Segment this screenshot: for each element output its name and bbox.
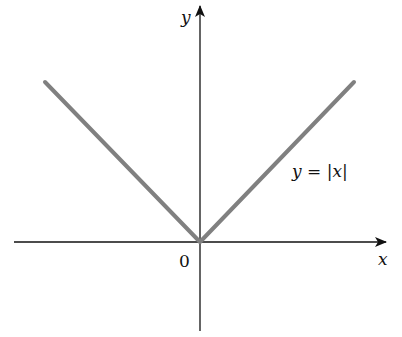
y-axis-label: y (180, 7, 191, 27)
x-axis-label: x (378, 249, 388, 269)
graph-canvas: y x 0 y = |x| (0, 0, 402, 337)
origin-label: 0 (179, 251, 190, 271)
function-label: y = |x| (291, 161, 348, 181)
